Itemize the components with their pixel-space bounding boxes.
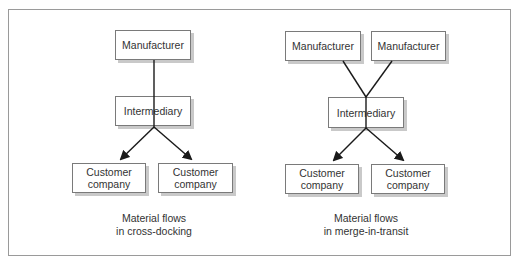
node-label: Customer company <box>168 166 224 190</box>
node-label: Intermediary <box>337 107 395 119</box>
node-label: Manufacturer <box>378 40 440 52</box>
merge-in-transit-customer-left-node: Customer company <box>285 164 359 194</box>
caption-line-2: in merge-in-transit <box>296 225 436 238</box>
node-label: Manufacturer <box>292 40 354 52</box>
cross-docking-manufacturer-node: Manufacturer <box>115 30 191 60</box>
merge-in-transit-customer-right-node: Customer company <box>371 164 445 194</box>
merge-in-transit-intermediary-node: Intermediary <box>328 97 404 128</box>
caption-line-1: Material flows <box>296 212 436 225</box>
node-label: Customer company <box>294 167 350 191</box>
merge-in-transit-manufacturer-right-node: Manufacturer <box>371 31 446 61</box>
cross-docking-caption: Material flows in cross-docking <box>84 212 224 238</box>
merge-in-transit-caption: Material flows in merge-in-transit <box>296 212 436 238</box>
node-label: Intermediary <box>124 105 182 117</box>
merge-in-transit-manufacturer-left-node: Manufacturer <box>285 31 361 61</box>
node-label: Manufacturer <box>122 39 184 51</box>
cross-docking-intermediary-node: Intermediary <box>115 96 191 126</box>
caption-line-2: in cross-docking <box>84 225 224 238</box>
cross-docking-customer-right-node: Customer company <box>158 163 233 193</box>
cross-docking-customer-left-node: Customer company <box>72 163 146 193</box>
node-label: Customer company <box>81 166 137 190</box>
node-label: Customer company <box>380 167 436 191</box>
caption-line-1: Material flows <box>84 212 224 225</box>
